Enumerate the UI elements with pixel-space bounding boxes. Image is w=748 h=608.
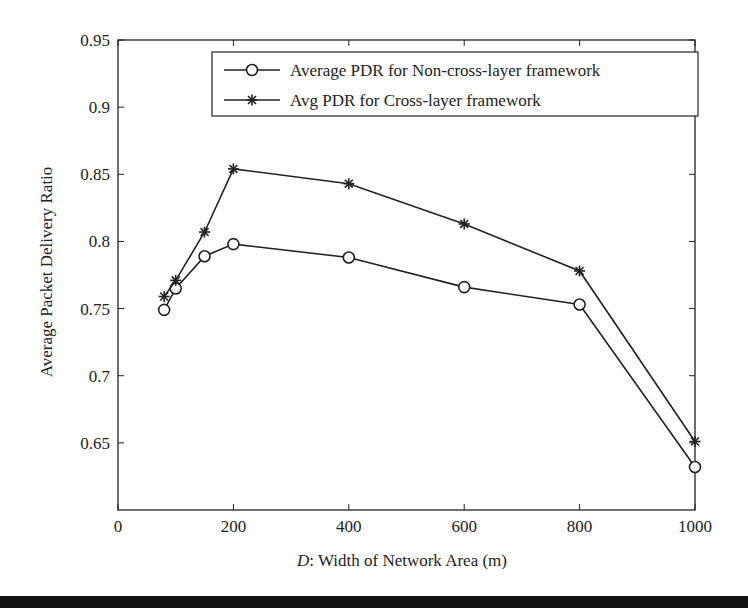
- y-tick-label: 0.65: [80, 434, 110, 453]
- data-point: [228, 239, 239, 250]
- series-cross-layer: [159, 163, 701, 447]
- data-point: [343, 178, 354, 189]
- asterisk-marker-icon: [247, 95, 258, 106]
- x-tick-label: 400: [336, 517, 362, 536]
- x-axis-label-text: : Width of Network Area (m): [309, 551, 507, 570]
- data-point: [690, 462, 701, 473]
- y-tick-label: 0.95: [80, 31, 110, 50]
- series-line: [164, 169, 695, 442]
- x-tick-label: 600: [451, 517, 477, 536]
- data-point: [574, 265, 585, 276]
- y-tick-label: 0.7: [89, 367, 111, 386]
- bottom-border-bar: [0, 596, 748, 608]
- y-axis-label: Average Packet Delivery Ratio: [37, 167, 56, 378]
- x-tick-label: 1000: [678, 517, 712, 536]
- data-point: [574, 299, 585, 310]
- y-tick-label: 0.75: [80, 300, 110, 319]
- y-tick-label: 0.85: [80, 165, 110, 184]
- circle-marker-icon: [247, 65, 258, 76]
- data-point: [228, 163, 239, 174]
- x-tick-label: 200: [221, 517, 247, 536]
- x-axis-label: D: Width of Network Area (m): [296, 551, 507, 570]
- y-tick-label: 0.9: [89, 98, 110, 117]
- legend-label: Average PDR for Non-cross-layer framewor…: [290, 61, 601, 80]
- series-line: [164, 244, 695, 467]
- chart: 020040060080010000.650.70.750.80.850.90.…: [0, 0, 748, 608]
- data-point: [199, 227, 210, 238]
- data-point: [459, 218, 470, 229]
- x-axis-label-variable: D: [296, 551, 310, 570]
- data-point: [159, 304, 170, 315]
- data-point: [343, 252, 354, 263]
- series-layer: [159, 163, 701, 472]
- data-point: [690, 436, 701, 447]
- y-tick-label: 0.8: [89, 232, 110, 251]
- data-point: [170, 275, 181, 286]
- series-non-cross-layer: [159, 239, 701, 473]
- data-point: [159, 291, 170, 302]
- x-tick-label: 0: [114, 517, 123, 536]
- legend-label: Avg PDR for Cross-layer framework: [290, 91, 541, 110]
- data-point: [459, 282, 470, 293]
- data-point: [199, 251, 210, 262]
- legend: Average PDR for Non-cross-layer framewor…: [212, 52, 698, 116]
- x-tick-label: 800: [567, 517, 593, 536]
